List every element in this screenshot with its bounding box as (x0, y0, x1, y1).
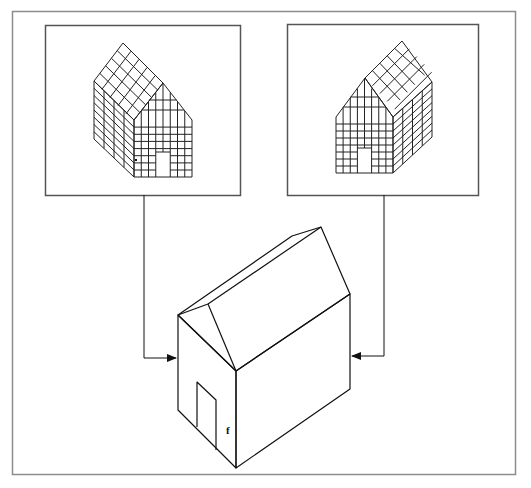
main-house-door (197, 382, 216, 450)
main-house-mark: f (226, 425, 230, 436)
diagram-frame: f (0, 0, 531, 488)
right-panel (288, 25, 479, 196)
connector-right (352, 195, 384, 356)
diagram-canvas (0, 0, 531, 488)
connector-left (144, 195, 176, 358)
right-panel-border (288, 25, 479, 196)
main-house-roof (178, 227, 350, 371)
left-panel-dot (135, 159, 137, 161)
main-house (178, 227, 350, 468)
left-panel (46, 26, 241, 196)
main-house-right-wall (236, 294, 350, 468)
